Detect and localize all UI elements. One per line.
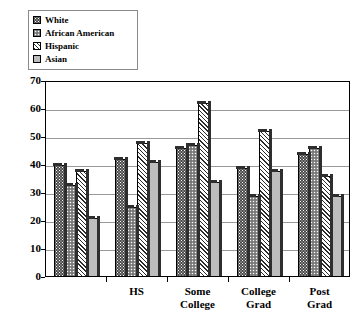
y-axis-tick-label: 40 (17, 159, 41, 170)
bar-side-shadow (125, 157, 128, 276)
x-axis-tick-label: HS (106, 285, 167, 298)
bar-side-shadow (330, 174, 333, 276)
legend-item-african-american: African American (33, 27, 133, 39)
bar-side-shadow (97, 216, 100, 276)
y-axis-tick-label: 30 (17, 187, 41, 198)
x-axis-tick-mark (228, 277, 229, 282)
bar-top-shadow (175, 146, 184, 149)
legend-item-asian: Asian (33, 53, 133, 65)
bar-top-shadow (308, 146, 317, 149)
bar-side-shadow (158, 160, 161, 276)
bar-white (54, 165, 65, 277)
bar-white (298, 154, 309, 277)
x-axis-tick-label: CollegeGrad (228, 285, 289, 311)
bar-top-shadow (236, 166, 245, 169)
y-axis-tick-label: 10 (17, 243, 41, 254)
bars-layer (45, 81, 350, 277)
bar-white (176, 148, 187, 277)
bar-side-shadow (247, 166, 250, 276)
bar-group (167, 81, 228, 277)
bar-side-shadow (197, 143, 200, 276)
bar-chart: White African American Hispanic Asian 01… (0, 0, 360, 328)
legend-label-white: White (45, 15, 69, 25)
legend-label-asian: Asian (45, 54, 67, 64)
bar-side-shadow (86, 169, 89, 276)
bar-side-shadow (64, 163, 67, 276)
bar-side-shadow (147, 141, 150, 276)
bar-side-shadow (136, 205, 139, 276)
bar-group (228, 81, 289, 277)
bar-side-shadow (186, 146, 189, 276)
bar-top-shadow (197, 101, 206, 104)
x-axis-labels: HSSomeCollegeCollegeGradPostGrad (45, 285, 350, 325)
bar-top-shadow (75, 169, 84, 172)
x-axis-tick-mark (167, 277, 168, 282)
bar-top-shadow (136, 141, 145, 144)
legend-label-african-american: African American (45, 28, 114, 38)
y-axis-tick-label: 70 (17, 75, 41, 86)
bar-top-shadow (258, 129, 267, 132)
x-axis-tick-label: SomeCollege (167, 285, 228, 311)
y-axis-tick-label: 0 (17, 271, 41, 282)
bar-side-shadow (208, 101, 211, 276)
bar-group (106, 81, 167, 277)
bar-side-shadow (280, 169, 283, 276)
legend-item-hispanic: Hispanic (33, 40, 133, 52)
y-axis-tick-label: 50 (17, 131, 41, 142)
bar-group (289, 81, 350, 277)
bar-side-shadow (308, 152, 311, 276)
bar-white (115, 159, 126, 277)
x-axis-ticks (45, 277, 350, 283)
y-axis-tick-label: 20 (17, 215, 41, 226)
legend-label-hispanic: Hispanic (45, 41, 79, 51)
x-axis-tick-mark (106, 277, 107, 282)
legend-item-white: White (33, 14, 133, 26)
chart-legend: White African American Hispanic Asian (28, 10, 138, 70)
bar-top-shadow (297, 152, 306, 155)
y-axis-labels: 010203040506070 (14, 0, 41, 328)
bar-side-shadow (75, 183, 78, 276)
bar-group (45, 81, 106, 277)
bar-white (237, 168, 248, 277)
x-axis-tick-label: PostGrad (289, 285, 350, 311)
bar-side-shadow (219, 180, 222, 276)
bar-side-shadow (269, 129, 272, 276)
y-axis-tick-label: 60 (17, 103, 41, 114)
bar-side-shadow (341, 194, 344, 276)
bar-side-shadow (319, 146, 322, 276)
bar-top-shadow (53, 163, 62, 166)
bar-top-shadow (114, 157, 123, 160)
x-axis-tick-mark (289, 277, 290, 282)
bar-side-shadow (258, 194, 261, 276)
